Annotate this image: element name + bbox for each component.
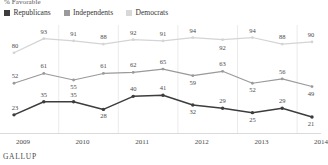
data-point[interactable]	[310, 115, 313, 118]
data-label: 94	[190, 28, 197, 35]
data-point[interactable]	[161, 94, 164, 97]
data-point[interactable]	[191, 103, 194, 106]
data-point[interactable]	[102, 43, 105, 46]
x-tick-label: 2013	[254, 138, 268, 146]
data-label: 91	[160, 31, 167, 38]
data-point[interactable]	[221, 38, 224, 41]
data-label: 80	[12, 43, 19, 50]
data-label: 91	[70, 31, 77, 38]
data-point[interactable]	[132, 38, 135, 41]
legend-label-independents: Independents	[73, 9, 113, 17]
data-point[interactable]	[12, 113, 15, 116]
data-point[interactable]	[42, 37, 45, 40]
data-label: 88	[279, 34, 286, 41]
data-point[interactable]	[221, 70, 224, 73]
x-tick-label: 2009	[16, 138, 30, 146]
data-point[interactable]	[132, 95, 135, 98]
data-label: 59	[190, 80, 197, 87]
data-point[interactable]	[13, 82, 16, 85]
legend-label-democrats: Democrats	[136, 9, 169, 17]
data-point[interactable]	[191, 74, 194, 77]
data-point[interactable]	[311, 40, 314, 43]
data-label: 25	[249, 117, 256, 124]
data-point[interactable]	[72, 100, 75, 103]
data-point[interactable]	[311, 85, 314, 88]
data-point[interactable]	[102, 72, 105, 75]
data-label: 35	[41, 92, 48, 99]
x-tick-label: 2014	[314, 138, 328, 146]
data-label: 41	[160, 85, 167, 92]
data-point[interactable]	[132, 71, 135, 74]
data-label: 28	[100, 113, 107, 120]
data-label: 35	[70, 92, 77, 99]
legend-item-independents[interactable]: Independents	[64, 9, 114, 17]
x-tick-label: 2010	[76, 138, 90, 146]
data-label: 52	[12, 73, 19, 80]
data-point[interactable]	[102, 108, 105, 111]
data-point[interactable]	[72, 79, 75, 82]
data-point[interactable]	[13, 51, 16, 54]
chart-legend: Republicans Independents Democrats	[4, 9, 181, 17]
data-point[interactable]	[281, 43, 284, 46]
data-label: 94	[249, 28, 256, 35]
data-label: 55	[70, 84, 77, 91]
x-tick-label: 2012	[195, 138, 209, 146]
data-label: 21	[308, 121, 315, 128]
data-point[interactable]	[251, 111, 254, 114]
data-point[interactable]	[221, 107, 224, 110]
legend-swatch-icon	[126, 10, 132, 16]
line-chart-svg	[0, 25, 321, 135]
data-point[interactable]	[162, 68, 165, 71]
data-label: 88	[100, 34, 107, 41]
data-point[interactable]	[42, 72, 45, 75]
data-label: 62	[130, 62, 137, 69]
data-label: 29	[219, 98, 226, 105]
data-label: 63	[219, 61, 226, 68]
data-label: 56	[279, 69, 286, 76]
data-point[interactable]	[72, 39, 75, 42]
data-label: 93	[41, 29, 48, 36]
data-point[interactable]	[42, 100, 45, 103]
data-point[interactable]	[162, 39, 165, 42]
data-point[interactable]	[281, 78, 284, 81]
legend-swatch-icon	[64, 10, 70, 16]
legend-item-republicans[interactable]: Republicans	[4, 9, 51, 17]
data-label: 52	[249, 87, 256, 94]
data-label: 49	[308, 91, 315, 98]
data-label: 23	[12, 105, 19, 112]
data-point[interactable]	[251, 82, 254, 85]
data-label: 92	[219, 45, 226, 52]
legend-label-republicans: Republicans	[14, 9, 51, 17]
axis-title: % Favorable	[4, 0, 41, 6]
x-axis: 200920102011201220132014	[0, 136, 321, 150]
data-label: 40	[130, 86, 137, 93]
data-point[interactable]	[251, 36, 254, 39]
data-label: 32	[190, 109, 197, 116]
data-label: 90	[308, 32, 315, 39]
data-label: 61	[41, 63, 48, 70]
data-label: 29	[279, 98, 286, 105]
legend-item-democrats[interactable]: Democrats	[126, 9, 168, 17]
legend-swatch-icon	[4, 10, 10, 16]
source-attribution: GALLUP	[3, 152, 37, 161]
data-point[interactable]	[191, 36, 194, 39]
data-point[interactable]	[281, 107, 284, 110]
x-tick-label: 2011	[135, 138, 149, 146]
data-label: 92	[130, 30, 137, 37]
data-label: 61	[100, 63, 107, 70]
data-label: 65	[160, 59, 167, 66]
plot-area: 8093918892919492948890526155616265596352…	[0, 25, 321, 135]
